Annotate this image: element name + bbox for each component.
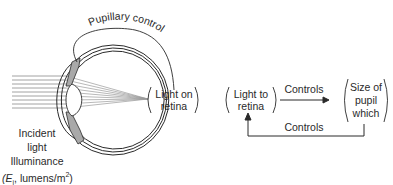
size-of-pupil-line3: which bbox=[346, 107, 386, 120]
incident-light-label: Incident light Illuminance (Ei, lumens/m… bbox=[2, 126, 72, 185]
illuminance-unit: , lumens/m bbox=[14, 172, 65, 184]
left-box-paren-right bbox=[273, 87, 276, 113]
size-of-pupil-box: Size of pupil which bbox=[346, 81, 386, 120]
incident-line1: Incident bbox=[2, 126, 72, 140]
incident-light-rays bbox=[12, 76, 66, 108]
size-of-pupil-line1: Size of bbox=[346, 81, 386, 94]
illuminance-symbol: (E bbox=[2, 172, 13, 184]
incident-line3: Illuminance bbox=[2, 154, 72, 168]
retina-label-paren-left bbox=[148, 87, 151, 113]
lens bbox=[66, 84, 82, 116]
incident-line2: light bbox=[2, 140, 72, 154]
retina-label-line2: retina bbox=[154, 100, 194, 112]
light-to-retina-line2: retina bbox=[229, 100, 273, 112]
forward-controls-label: Controls bbox=[281, 83, 327, 95]
retina-label-line1: Light on bbox=[154, 88, 194, 100]
illuminance-close-paren: ) bbox=[69, 172, 73, 184]
return-controls-label: Controls bbox=[281, 121, 327, 133]
retina-label-paren-right bbox=[195, 87, 198, 113]
incident-line4: (Ei, lumens/m2) bbox=[2, 168, 72, 185]
retina-label: Light on retina bbox=[154, 88, 194, 112]
forward-arrow bbox=[280, 97, 329, 103]
light-to-retina-box: Light to retina bbox=[229, 88, 273, 112]
size-of-pupil-line2: pupil bbox=[346, 94, 386, 107]
light-to-retina-line1: Light to bbox=[229, 88, 273, 100]
